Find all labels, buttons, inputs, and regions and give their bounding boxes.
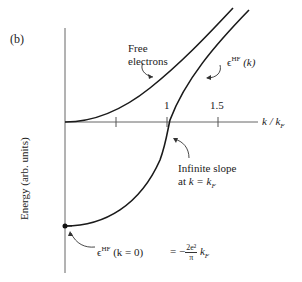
fraction: 2e²π [185,243,197,262]
equals-minus: = − [170,245,185,257]
fraction-numerator: 2e² [185,243,197,253]
infinite-slope-line1: Infinite slope [178,162,236,174]
ehf-arrow [207,65,220,78]
x-tick-label-1: 1 [164,100,170,111]
x-tick-label-1.5: 1.5 [210,100,224,111]
free-electrons-label: Free electrons [128,42,168,68]
slope-arrowhead [173,138,178,143]
slope-k-eq: k = k [189,175,212,187]
slope-at: at [178,175,189,187]
eq-k: k [197,245,205,257]
hf-k0-point [63,224,68,229]
x-axis-kf: / k [267,115,280,127]
ehf-k0-label: ϵHF (k = 0) [97,246,143,258]
x-axis-label: k / kF [262,116,285,130]
infinite-slope-label: Infinite slope at k = kF [178,162,236,193]
k0-arrowhead [68,231,73,236]
k0-arrow [71,233,95,247]
eq-sub: F [205,252,209,260]
free-electrons-line1: Free [128,42,148,54]
ek0-argument: (k = 0) [110,246,143,258]
x-axis-sub: F [280,122,284,130]
ehf-argument: (k) [240,56,255,68]
panel-label: (b) [10,33,24,45]
slope-sub: F [211,182,215,190]
ehf-arrowhead [206,75,211,80]
ek0-value-equation: = −2e²π kF [170,243,209,262]
free-electrons-line2: electrons [128,55,168,67]
fraction-denominator: π [185,253,197,262]
y-axis-label: Energy (arb. units) [19,137,30,220]
ehf-curve-label: ϵHF (k) [227,56,255,68]
